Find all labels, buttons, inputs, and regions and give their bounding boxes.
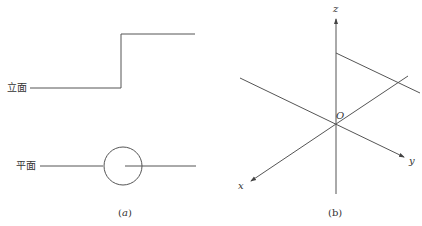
line-from-z [336,53,420,93]
line-through-origin [336,76,408,124]
elevation-line [30,34,195,88]
caption-a: (a) [118,208,132,218]
y-axis [240,78,404,157]
x-axis-label: x [238,181,244,191]
caption-b: (b) [328,208,342,218]
x-axis [251,124,336,181]
plan-label: 平面 [16,161,36,171]
y-axis-label: y [409,156,415,166]
elevation-label: 立面 [7,83,27,93]
diagram-canvas: 立面 平面 (a) z x y O (b) [0,0,422,226]
diagram-lines [0,0,422,226]
origin-label: O [336,111,344,121]
z-axis-label: z [333,4,338,14]
